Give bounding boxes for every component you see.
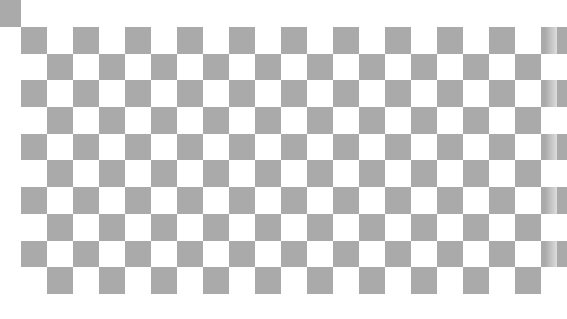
light-square: [255, 187, 281, 214]
light-square: [463, 80, 489, 107]
dark-square: [125, 80, 151, 107]
dark-square: [255, 267, 281, 294]
light-square: [99, 27, 125, 54]
dark-square: [99, 267, 125, 294]
light-square: [333, 54, 359, 81]
light-square: [177, 107, 203, 134]
light-square: [411, 187, 437, 214]
light-square: [359, 241, 385, 268]
light-square: [21, 107, 47, 134]
dark-square: [47, 107, 73, 134]
dark-square: [177, 80, 203, 107]
dark-square: [229, 134, 255, 161]
light-square: [255, 241, 281, 268]
light-square: [151, 80, 177, 107]
right-edge-fade: [545, 0, 557, 319]
dark-square: [489, 27, 515, 54]
dark-square: [281, 134, 307, 161]
light-square: [385, 160, 411, 187]
light-square: [229, 214, 255, 241]
light-square: [203, 80, 229, 107]
light-square: [73, 160, 99, 187]
light-square: [307, 80, 333, 107]
light-square: [47, 241, 73, 268]
light-square: [385, 267, 411, 294]
dark-square: [203, 54, 229, 81]
dark-square: [463, 107, 489, 134]
light-square: [47, 187, 73, 214]
dark-square: [281, 187, 307, 214]
dark-square: [21, 187, 47, 214]
dark-square: [515, 160, 541, 187]
dark-square: [385, 27, 411, 54]
light-square: [307, 134, 333, 161]
light-square: [255, 134, 281, 161]
dark-square: [73, 134, 99, 161]
dark-square: [73, 27, 99, 54]
light-square: [515, 80, 541, 107]
dark-square: [489, 187, 515, 214]
light-square: [21, 160, 47, 187]
dark-square: [307, 54, 333, 81]
light-square: [151, 134, 177, 161]
dark-square: [411, 160, 437, 187]
dark-square: [489, 134, 515, 161]
light-square: [489, 160, 515, 187]
light-square: [489, 214, 515, 241]
dark-square: [73, 80, 99, 107]
dark-square: [177, 241, 203, 268]
dark-square: [47, 214, 73, 241]
light-square: [99, 241, 125, 268]
light-square: [385, 214, 411, 241]
dark-square: [255, 160, 281, 187]
dark-square: [489, 241, 515, 268]
light-square: [437, 160, 463, 187]
light-square: [99, 187, 125, 214]
dark-square: [229, 187, 255, 214]
dark-square: [411, 267, 437, 294]
light-square: [437, 54, 463, 81]
dark-square: [203, 160, 229, 187]
light-square: [359, 27, 385, 54]
dark-square: [359, 54, 385, 81]
light-square: [47, 80, 73, 107]
dark-square: [229, 27, 255, 54]
light-square: [73, 267, 99, 294]
light-square: [255, 27, 281, 54]
light-square: [463, 241, 489, 268]
light-square: [229, 160, 255, 187]
dark-square: [333, 80, 359, 107]
light-square: [463, 134, 489, 161]
dark-square: [177, 134, 203, 161]
light-square: [203, 187, 229, 214]
light-square: [99, 80, 125, 107]
dark-square: [281, 80, 307, 107]
corner-square: [0, 0, 21, 27]
dark-square: [21, 27, 47, 54]
dark-square: [489, 80, 515, 107]
dark-square: [385, 241, 411, 268]
dark-square: [99, 214, 125, 241]
light-square: [411, 241, 437, 268]
light-square: [333, 107, 359, 134]
light-square: [73, 107, 99, 134]
light-square: [359, 134, 385, 161]
dark-square: [437, 27, 463, 54]
dark-square: [307, 267, 333, 294]
light-square: [515, 187, 541, 214]
light-square: [515, 134, 541, 161]
dark-square: [203, 214, 229, 241]
light-square: [151, 187, 177, 214]
dark-square: [411, 214, 437, 241]
dark-square: [229, 241, 255, 268]
light-square: [307, 187, 333, 214]
dark-square: [411, 54, 437, 81]
light-square: [463, 27, 489, 54]
dark-square: [437, 187, 463, 214]
dark-square: [21, 134, 47, 161]
dark-square: [333, 27, 359, 54]
light-square: [151, 241, 177, 268]
dark-square: [385, 80, 411, 107]
light-square: [255, 80, 281, 107]
dark-square: [515, 107, 541, 134]
